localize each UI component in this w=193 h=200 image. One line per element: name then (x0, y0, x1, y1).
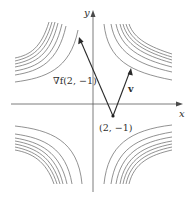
contour-curve (126, 147, 172, 184)
contour-curve (111, 132, 172, 184)
contour-curve (15, 22, 55, 64)
contours-upper-left (15, 22, 78, 82)
contour-curve (15, 23, 58, 67)
gradient-label: ∇f(2, −1) (53, 75, 97, 86)
y-axis-arrow-icon (91, 10, 96, 17)
contours-upper-right (104, 24, 172, 80)
contour-curve (15, 144, 60, 184)
direction-vector-label: v (127, 83, 134, 94)
contour-curve (116, 137, 172, 184)
contours-lower-left (15, 126, 82, 184)
contour-curve (15, 126, 82, 184)
contour-diagram: y x ∇f(2, −1) v (2, −1) (0, 0, 193, 200)
y-axis-label: y (83, 7, 90, 18)
contours-lower-right (104, 125, 172, 184)
gradient-arrowhead-icon (78, 37, 83, 44)
contour-curve (104, 24, 172, 80)
point-label: (2, −1) (99, 122, 133, 133)
axes (11, 10, 183, 192)
contour-curve (15, 134, 72, 184)
contour-curve (15, 141, 63, 184)
contour-curve (15, 150, 54, 184)
direction-arrowhead-icon (128, 68, 133, 75)
contour-curve (15, 24, 62, 71)
point-marker (111, 114, 114, 117)
contour-curve (15, 138, 67, 184)
x-axis-label: x (179, 108, 185, 119)
contour-curve (15, 22, 52, 61)
contour-curve (15, 26, 66, 75)
x-axis-arrow-icon (176, 102, 183, 107)
contour-curve (123, 144, 172, 184)
